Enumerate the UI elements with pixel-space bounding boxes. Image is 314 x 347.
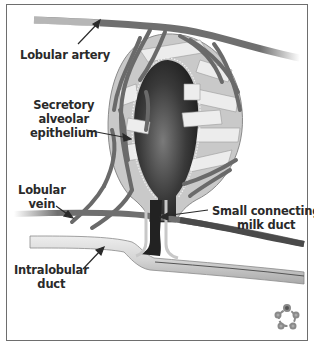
label-intralobular-duct: Intralobular duct [14, 263, 89, 291]
label-secretory-alveolar-epithelium: Secretory alveolar epithelium [30, 98, 98, 140]
label-small-connecting-milk-duct: Small connecting milk duct [212, 204, 314, 232]
label-lobular-vein: Lobular vein [18, 183, 66, 211]
label-lobular-artery: Lobular artery [20, 48, 110, 62]
flower-ring-logo [276, 305, 299, 329]
